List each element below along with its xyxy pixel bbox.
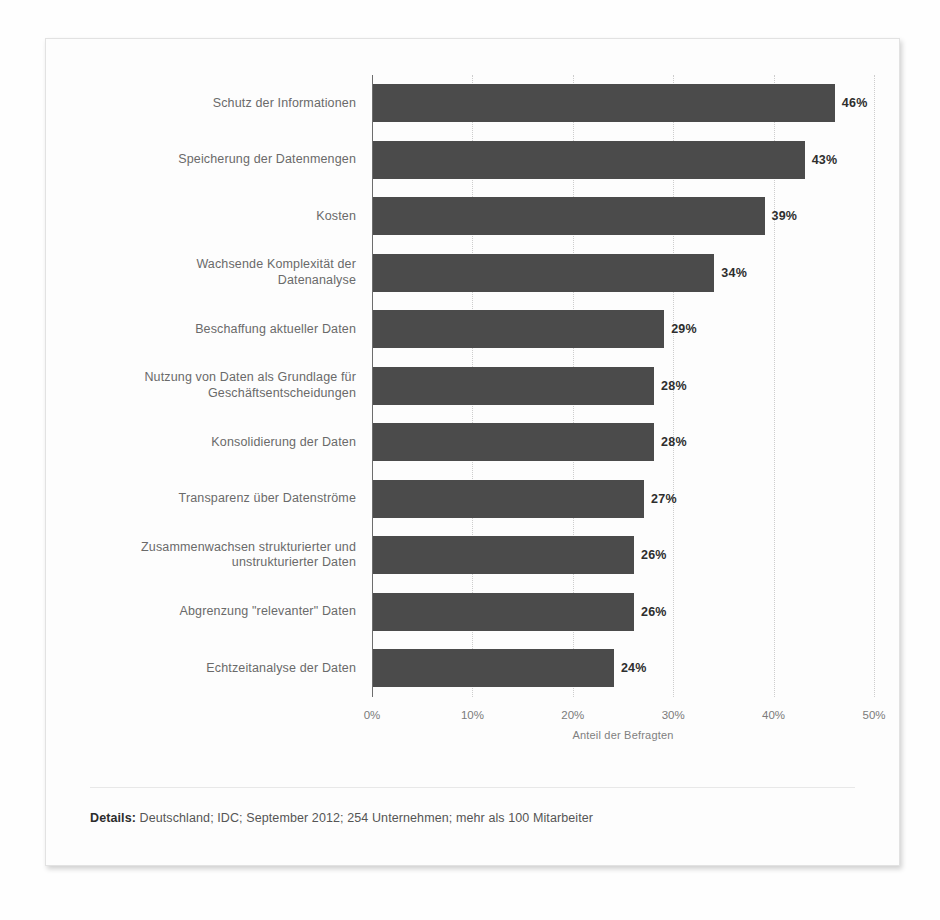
bar-row: Beschaffung aktueller Daten29% bbox=[46, 301, 901, 358]
bar-value-label: 28% bbox=[661, 435, 687, 449]
bar-row: Nutzung von Daten als Grundlage für Gesc… bbox=[46, 358, 901, 415]
bar-value-label: 34% bbox=[721, 266, 747, 280]
bar-value-label: 26% bbox=[641, 605, 667, 619]
plot-region: Schutz der Informationen46%Speicherung d… bbox=[46, 39, 901, 739]
category-label: Speicherung der Datenmengen bbox=[106, 152, 356, 168]
bar-rows: Schutz der Informationen46%Speicherung d… bbox=[46, 75, 901, 697]
bar-track: 26% bbox=[373, 527, 875, 584]
bar-value-label: 39% bbox=[772, 209, 798, 223]
bar-track: 29% bbox=[373, 301, 875, 358]
bar-track: 39% bbox=[373, 188, 875, 245]
bar bbox=[373, 423, 654, 461]
bar-track: 46% bbox=[373, 75, 875, 132]
bar bbox=[373, 536, 634, 574]
x-tick-label: 20% bbox=[561, 709, 584, 721]
bar bbox=[373, 480, 644, 518]
figure-caption bbox=[52, 898, 900, 920]
bar-row: Wachsende Komplexität der Datenanalyse34… bbox=[46, 245, 901, 302]
bar-row: Zusammenwachsen strukturierter und unstr… bbox=[46, 527, 901, 584]
bar-track: 28% bbox=[373, 414, 875, 471]
bar-track: 43% bbox=[373, 132, 875, 189]
x-tick-label: 0% bbox=[364, 709, 381, 721]
bar-track: 26% bbox=[373, 584, 875, 641]
category-label: Echtzeitanalyse der Daten bbox=[106, 661, 356, 677]
bar-track: 28% bbox=[373, 358, 875, 415]
bar-row: Transparenz über Datenströme27% bbox=[46, 471, 901, 528]
category-label: Zusammenwachsen strukturierter und unstr… bbox=[106, 540, 356, 571]
bar-track: 34% bbox=[373, 245, 875, 302]
bar-value-label: 29% bbox=[671, 322, 697, 336]
category-label: Nutzung von Daten als Grundlage für Gesc… bbox=[106, 370, 356, 401]
category-label: Beschaffung aktueller Daten bbox=[106, 322, 356, 338]
bar-track: 27% bbox=[373, 471, 875, 528]
category-label: Schutz der Informationen bbox=[106, 96, 356, 112]
bar-value-label: 24% bbox=[621, 661, 647, 675]
bar-row: Kosten39% bbox=[46, 188, 901, 245]
bar-value-label: 46% bbox=[842, 96, 868, 110]
footer-details: Details: Deutschland; IDC; September 201… bbox=[90, 811, 869, 825]
x-tick-label: 40% bbox=[762, 709, 785, 721]
bar bbox=[373, 197, 765, 235]
bar bbox=[373, 84, 835, 122]
bar-value-label: 27% bbox=[651, 492, 677, 506]
bar-value-label: 43% bbox=[812, 153, 838, 167]
x-tick-label: 50% bbox=[862, 709, 885, 721]
x-tick-label: 10% bbox=[461, 709, 484, 721]
bar bbox=[373, 649, 614, 687]
bar-row: Konsolidierung der Daten28% bbox=[46, 414, 901, 471]
category-label: Transparenz über Datenströme bbox=[106, 491, 356, 507]
x-axis-title: Anteil der Befragten bbox=[372, 729, 874, 741]
details-text: Deutschland; IDC; September 2012; 254 Un… bbox=[136, 811, 593, 825]
bar-row: Abgrenzung "relevanter" Daten26% bbox=[46, 584, 901, 641]
chart-card: Schutz der Informationen46%Speicherung d… bbox=[45, 38, 900, 866]
bar bbox=[373, 593, 634, 631]
bar bbox=[373, 141, 805, 179]
category-label: Kosten bbox=[106, 209, 356, 225]
category-label: Abgrenzung "relevanter" Daten bbox=[106, 604, 356, 620]
bar bbox=[373, 310, 664, 348]
bar-value-label: 28% bbox=[661, 379, 687, 393]
footer-divider bbox=[90, 787, 855, 788]
details-label: Details: bbox=[90, 811, 136, 825]
category-label: Konsolidierung der Daten bbox=[106, 435, 356, 451]
bar-row: Speicherung der Datenmengen43% bbox=[46, 132, 901, 189]
bar bbox=[373, 367, 654, 405]
x-tick-label: 30% bbox=[662, 709, 685, 721]
bar-row: Schutz der Informationen46% bbox=[46, 75, 901, 132]
bar bbox=[373, 254, 714, 292]
bar-value-label: 26% bbox=[641, 548, 667, 562]
bar-row: Echtzeitanalyse der Daten24% bbox=[46, 640, 901, 697]
bar-track: 24% bbox=[373, 640, 875, 697]
category-label: Wachsende Komplexität der Datenanalyse bbox=[106, 257, 356, 288]
